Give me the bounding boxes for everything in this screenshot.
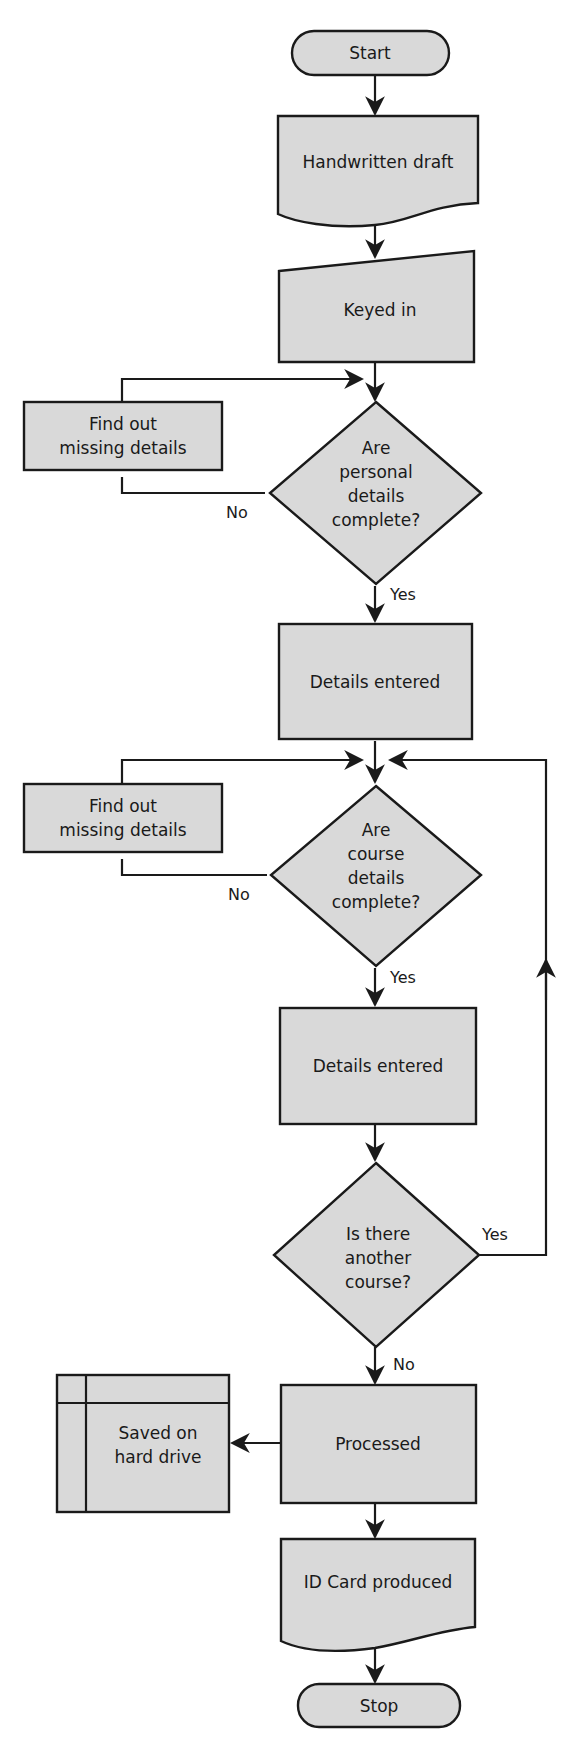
decision2-no-label: No: [228, 885, 250, 904]
line-decision1-no: [122, 477, 265, 493]
decision1-line3: details: [348, 486, 405, 506]
node-details-entered-personal: Details entered: [279, 624, 472, 739]
arrow-missing1-to-decision1: [122, 379, 362, 402]
keyed-in-label: Keyed in: [344, 300, 417, 320]
missing1-line2: missing details: [59, 438, 186, 458]
saved-line1: Saved on: [118, 1423, 197, 1443]
node-decision-course: Are course details complete?: [271, 786, 481, 966]
stop-label: Stop: [360, 1696, 399, 1716]
idcard-label: ID Card produced: [304, 1572, 453, 1592]
missing2-line2: missing details: [59, 820, 186, 840]
line-decision2-no: [122, 859, 267, 875]
node-id-card-produced: ID Card produced: [281, 1539, 475, 1651]
node-saved-hard-drive: Saved on hard drive: [57, 1375, 229, 1512]
missing2-line1: Find out: [89, 796, 157, 816]
decision1-line4: complete?: [332, 510, 420, 530]
start-label: Start: [349, 43, 391, 63]
entered2-label: Details entered: [313, 1056, 444, 1076]
node-decision-another-course: Is there another course?: [274, 1163, 479, 1347]
decision2-line1: Are: [362, 820, 391, 840]
decision1-line1: Are: [362, 438, 391, 458]
node-start: Start: [292, 31, 449, 75]
node-find-missing-personal: Find out missing details: [24, 402, 222, 470]
missing1-line1: Find out: [89, 414, 157, 434]
decision1-no-label: No: [226, 503, 248, 522]
decision2-line2: course: [348, 844, 405, 864]
decision2-line4: complete?: [332, 892, 420, 912]
decision1-yes-label: Yes: [389, 585, 416, 604]
flowchart-canvas: Start Handwritten draft Keyed in Find ou…: [0, 0, 579, 1762]
node-processed: Processed: [281, 1385, 476, 1503]
decision3-line1: Is there: [346, 1224, 410, 1244]
decision3-line3: course?: [345, 1272, 411, 1292]
node-handwritten-draft: Handwritten draft: [278, 116, 478, 226]
node-details-entered-course: Details entered: [280, 1008, 476, 1124]
node-find-missing-course: Find out missing details: [24, 784, 222, 852]
node-keyed-in: Keyed in: [279, 251, 474, 362]
decision3-yes-label: Yes: [481, 1225, 508, 1244]
decision3-no-label: No: [393, 1355, 415, 1374]
node-stop: Stop: [298, 1684, 460, 1727]
node-decision-personal: Are personal details complete?: [270, 402, 481, 584]
decision1-line2: personal: [339, 462, 412, 482]
decision2-yes-label: Yes: [389, 968, 416, 987]
saved-line2: hard drive: [114, 1447, 201, 1467]
arrow-missing2-to-decision2: [122, 760, 362, 784]
handwritten-draft-label: Handwritten draft: [303, 152, 454, 172]
processed-label: Processed: [335, 1434, 421, 1454]
entered1-label: Details entered: [310, 672, 441, 692]
decision2-line3: details: [348, 868, 405, 888]
decision3-line2: another: [345, 1248, 411, 1268]
